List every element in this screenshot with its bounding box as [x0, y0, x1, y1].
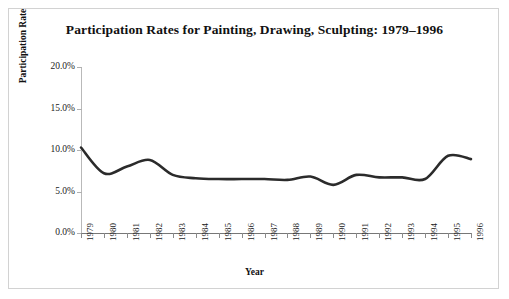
x-axis-tick-label: 1979 [85, 223, 95, 241]
y-axis-tick-label: 10.0% [23, 145, 75, 154]
x-axis-tick-mark [379, 233, 380, 238]
x-axis-tick-label: 1995 [452, 223, 462, 241]
x-axis-tick-mark [448, 233, 449, 238]
x-axis-tick-mark [242, 233, 243, 238]
x-axis-tick-mark [471, 233, 472, 238]
y-axis-tick-mark [77, 109, 82, 110]
x-axis-tick-mark [425, 233, 426, 238]
x-axis-tick-mark [104, 233, 105, 238]
y-axis-title: Participation Rate [18, 0, 28, 106]
x-axis-tick-mark [265, 233, 266, 238]
chart-frame: Participation Rates for Painting, Drawin… [8, 8, 499, 289]
x-axis-tick-label: 1981 [131, 223, 141, 241]
x-axis-tick-mark [196, 233, 197, 238]
x-axis-tick-label: 1982 [154, 223, 164, 241]
x-axis-title: Year [9, 267, 500, 277]
x-axis-tick-label: 1986 [246, 223, 256, 241]
x-axis-tick-label: 1980 [108, 223, 118, 241]
x-axis-tick-mark [81, 233, 82, 238]
x-axis-tick-mark [287, 233, 288, 238]
line-path [81, 148, 471, 185]
y-axis-tick-mark [77, 150, 82, 151]
x-axis-tick-label: 1985 [223, 223, 233, 241]
x-axis-tick-label: 1991 [360, 223, 370, 241]
x-axis-tick-label: 1983 [177, 223, 187, 241]
x-axis-tick-label: 1984 [200, 223, 210, 241]
x-axis-tick-label: 1992 [383, 223, 393, 241]
y-axis-tick-label: 0.0% [23, 228, 75, 237]
y-axis-tick-label: 15.0% [23, 104, 75, 113]
x-axis-tick-label: 1988 [291, 223, 301, 241]
y-axis-tick-label: 5.0% [23, 187, 75, 196]
x-axis-tick-mark [356, 233, 357, 238]
chart-title: Participation Rates for Painting, Drawin… [9, 22, 500, 38]
x-axis-tick-label: 1993 [406, 223, 416, 241]
x-axis-tick-mark [333, 233, 334, 238]
x-axis-tick-mark [310, 233, 311, 238]
x-axis-tick-mark [402, 233, 403, 238]
x-axis-tick-label: 1990 [337, 223, 347, 241]
plot-area [81, 67, 471, 233]
y-axis-tick-mark [77, 67, 82, 68]
x-axis-tick-mark [173, 233, 174, 238]
y-axis-tick-label: 20.0% [23, 62, 75, 71]
x-axis-tick-label: 1989 [314, 223, 324, 241]
x-axis-tick-label: 1994 [429, 223, 439, 241]
series-line-participation-rate [81, 67, 471, 233]
x-axis-tick-mark [150, 233, 151, 238]
x-axis-tick-label: 1987 [269, 223, 279, 241]
y-axis-tick-mark [77, 192, 82, 193]
x-axis-tick-mark [219, 233, 220, 238]
x-axis-tick-mark [127, 233, 128, 238]
x-axis-tick-label: 1996 [475, 223, 485, 241]
